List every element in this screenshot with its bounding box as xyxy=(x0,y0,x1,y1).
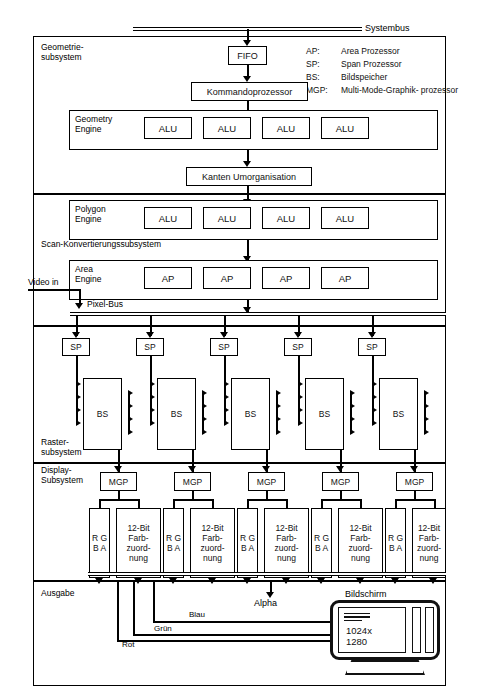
wire-sp-bs-bar-1 xyxy=(76,384,78,425)
polygon-engine-label: Polygon Engine xyxy=(75,205,106,224)
arrow-bs-out-3-c xyxy=(276,416,281,422)
arrow-cmap-out-1 xyxy=(134,578,142,584)
geometry-alu-4: ALU xyxy=(321,117,369,139)
divider-raster xyxy=(33,325,446,327)
wire-mgp-5-stem xyxy=(414,491,416,499)
frame-buffer-1: BS xyxy=(83,378,122,450)
wire-mgp-3-split xyxy=(247,499,287,501)
arrow-bs-out-4-a xyxy=(350,390,355,396)
rgba-1: R G B A xyxy=(89,508,110,578)
colormap-5: 12-Bit Farb- zuord- nung xyxy=(412,508,446,578)
arrow-bs-in-4-c xyxy=(298,407,303,413)
frame-buffer-4: BS xyxy=(305,378,344,450)
arrow-bs-out-1-c xyxy=(128,416,133,422)
kanten-umorganisation-box: Kanten Umorganisation xyxy=(186,167,312,186)
arrow-bs-out-4-c xyxy=(350,416,355,422)
wire-blau-h xyxy=(153,621,351,623)
wire-bs-out-bar-5 xyxy=(424,393,426,434)
wire-sp-bs-4 xyxy=(298,356,300,384)
section-label-ausgabe: Ausgabe xyxy=(41,589,75,599)
arrow-bs-in-4-d xyxy=(298,420,303,426)
wire-mgp-1-stem xyxy=(118,491,120,499)
pixel-bus-label: Pixel-Bus xyxy=(87,300,123,310)
wire-mgp-2-split xyxy=(173,499,213,501)
section-label-geometrie: Geometrie- subsystem xyxy=(41,43,84,62)
span-processor-4: SP xyxy=(284,338,312,356)
arrow-bs-in-5-a xyxy=(372,381,377,387)
monitor-vent-1 xyxy=(412,607,421,653)
wire-rot-v xyxy=(117,580,119,641)
arrow-rgba-out-5 xyxy=(391,578,399,584)
bildschirm-label: Bildschirm xyxy=(345,589,387,599)
geometry-alu-2: ALU xyxy=(203,117,251,139)
area-ap-1: AP xyxy=(144,267,192,289)
arrow-bs-in-2-b xyxy=(150,394,155,400)
gruen-label: Grün xyxy=(154,625,172,634)
mgp-5: MGP xyxy=(396,472,433,491)
geometry-alu-1: ALU xyxy=(144,117,192,139)
arrow-bs-out-3-d xyxy=(276,429,281,435)
arrow-bs-out-3-b xyxy=(276,403,281,409)
geometry-engine-panel xyxy=(69,110,438,150)
arrow-bs-out-5-c xyxy=(424,416,429,422)
arrow-bs-in-5-c xyxy=(372,407,377,413)
wire-video-in xyxy=(28,289,80,291)
legend-key-bs: BS: xyxy=(306,72,320,82)
kommandoprozessor-box: Kommandoprozessor xyxy=(191,82,308,101)
mgp-2: MGP xyxy=(174,472,211,491)
rgba-3: R G B A xyxy=(237,508,258,578)
rgba-2: R G B A xyxy=(163,508,184,578)
mgp-3: MGP xyxy=(248,472,285,491)
monitor-stand xyxy=(345,660,425,675)
span-processor-1: SP xyxy=(62,338,90,356)
colormap-3: 12-Bit Farb- zuord- nung xyxy=(264,508,309,578)
arrow-bs-out-5-b xyxy=(424,403,429,409)
geometry-alu-3: ALU xyxy=(262,117,310,139)
section-label-raster: Raster- subsystem xyxy=(41,438,82,457)
pixel-bus-line xyxy=(70,312,446,316)
legend-key-ap: AP: xyxy=(306,46,320,56)
divider-scan xyxy=(33,193,446,195)
geometry-engine-label: Geometry Engine xyxy=(75,115,112,134)
polygon-alu-4: ALU xyxy=(321,207,369,229)
wire-sp-bs-bar-3 xyxy=(224,384,226,425)
arrow-bs-out-4-b xyxy=(350,403,355,409)
arrow-bs-in-1-c xyxy=(76,407,81,413)
polygon-alu-2: ALU xyxy=(203,207,251,229)
mgp-4: MGP xyxy=(322,472,359,491)
fifo-box: FIFO xyxy=(228,46,267,65)
arrow-bs-in-3-a xyxy=(224,381,229,387)
rgba-4: R G B A xyxy=(311,508,332,578)
section-label-scan: Scan-Konvertierungssubsystem xyxy=(41,240,161,250)
arrow-rgba-out-4 xyxy=(317,578,325,584)
wire-gruen-h xyxy=(133,634,351,636)
wire-sp-bs-bar-2 xyxy=(150,384,152,425)
wire-mgp-1-split xyxy=(99,499,139,501)
arrow-bs-out-1-a xyxy=(128,390,133,396)
polygon-engine-panel xyxy=(69,200,438,240)
monitor-screen-lines xyxy=(344,613,370,623)
wire-sp-bs-bar-5 xyxy=(372,384,374,425)
arrow-rgba-out-1 xyxy=(95,578,103,584)
arrow-bs-in-1-b xyxy=(76,394,81,400)
arrow-cmap-out-5 xyxy=(429,578,437,584)
area-engine-panel xyxy=(69,260,438,300)
wire-mgp-4-split xyxy=(321,499,361,501)
divider-display xyxy=(33,462,446,464)
area-ap-2: AP xyxy=(203,267,251,289)
arrow-bs-out-1-b xyxy=(128,403,133,409)
span-processor-2: SP xyxy=(136,338,164,356)
arrow-bs-out-4-d xyxy=(350,429,355,435)
area-engine-label: Area Engine xyxy=(75,265,101,284)
wire-bs-out-bar-3 xyxy=(276,393,278,434)
output-bus-line xyxy=(88,572,446,576)
wire-sp-bs-5 xyxy=(372,356,374,384)
arrow-bs-out-5-a xyxy=(424,390,429,396)
colormap-1: 12-Bit Farb- zuord- nung xyxy=(116,508,161,578)
span-processor-5: SP xyxy=(358,338,386,356)
arrow-bs-in-3-c xyxy=(224,407,229,413)
legend-val-sp: Span Prozessor xyxy=(341,59,401,69)
wire-mgp-4-stem xyxy=(340,491,342,499)
monitor-vent-2 xyxy=(425,607,434,653)
wire-bs-out-bar-2 xyxy=(202,393,204,434)
